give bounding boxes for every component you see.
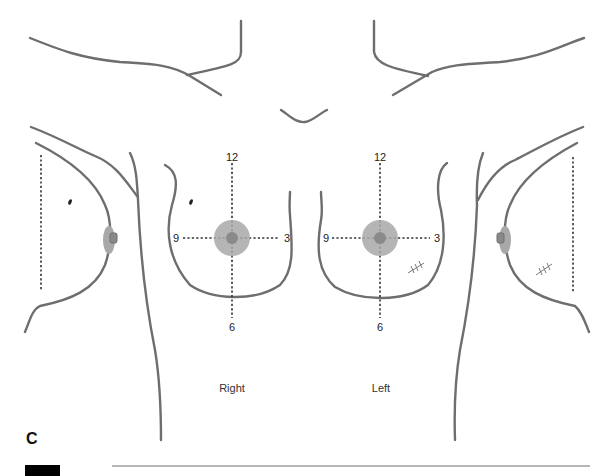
right-neck-line [187,21,241,75]
right-lateral-breast-profile [25,143,110,332]
left-clock-12: 12 [374,151,386,163]
left-lateral-breast-profile [505,143,589,332]
breast-clock-diagram: 12 6 9 3 12 6 9 3 Right Left C [0,0,614,476]
left-neck-line [374,21,428,76]
panel-accent-block [25,465,60,476]
right-nipple [226,232,238,244]
right-side-label: Right [219,382,245,394]
left-side-label: Left [372,382,390,394]
sternal-notch [281,110,327,122]
right-lateral-upper-arm-line [31,127,137,196]
right-clock-9: 9 [173,232,179,244]
left-breast-scar-icon [408,261,424,273]
right-clock-6: 6 [229,321,235,333]
right-lateral-mole-icon [67,199,72,206]
right-clock-12: 12 [226,151,238,163]
right-clock-3: 3 [284,232,290,244]
left-lateral-scar-icon [536,263,552,275]
right-clavicle-line [30,38,221,95]
right-breast-mole-icon [188,199,193,206]
left-clavicle-line [393,38,584,95]
left-clock-6: 6 [377,321,383,333]
right-torso-line [130,153,161,440]
left-lateral-nipple [497,233,504,243]
left-clock-9: 9 [323,232,329,244]
left-lateral-upper-arm-line [478,127,583,200]
left-nipple [374,232,386,244]
panel-letter: C [26,430,38,447]
left-clock-3: 3 [434,232,440,244]
right-lateral-nipple [110,233,117,243]
